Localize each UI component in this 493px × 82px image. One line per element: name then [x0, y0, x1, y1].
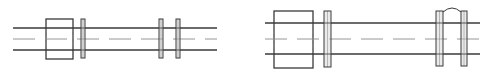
bearing-block — [274, 11, 313, 68]
shaft-assembly-right — [265, 8, 480, 68]
shaft-assembly-left — [13, 19, 217, 59]
coupling-arc — [443, 8, 461, 12]
technical-drawing — [0, 0, 493, 82]
